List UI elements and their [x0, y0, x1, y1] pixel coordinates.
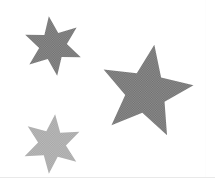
star-bottom-left-group [23, 111, 81, 176]
five-point-star-right [94, 37, 199, 138]
star-top-left-group [23, 13, 83, 80]
six-point-star-bottom-left [23, 111, 81, 176]
six-point-star-top-left [23, 13, 83, 80]
image-canvas: Three gray stars on white background Sma… [0, 0, 215, 183]
star-right-group [94, 37, 199, 138]
right-edge-rule [205, 0, 206, 177]
stars-illustration [0, 0, 215, 183]
bottom-edge-rule [0, 177, 215, 178]
